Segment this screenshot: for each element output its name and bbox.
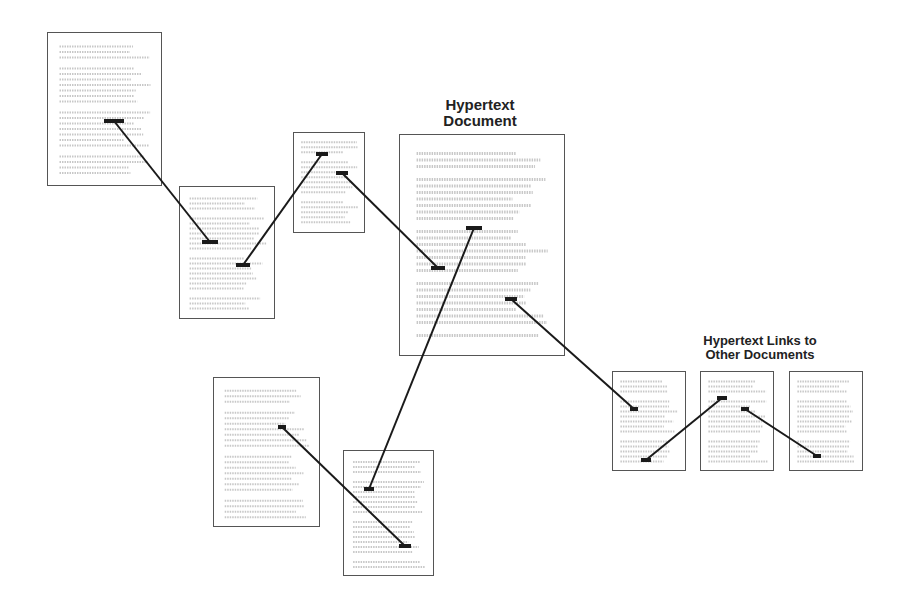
hyperlink-line bbox=[745, 409, 817, 456]
link-anchor bbox=[104, 119, 124, 123]
hyperlink-line bbox=[114, 121, 210, 242]
link-anchor bbox=[505, 297, 517, 301]
link-anchor bbox=[431, 266, 445, 270]
link-anchor bbox=[717, 396, 727, 400]
hyperlink-line bbox=[342, 173, 438, 268]
link-anchor bbox=[336, 171, 348, 175]
link-anchor bbox=[316, 152, 328, 156]
link-anchor bbox=[202, 240, 218, 244]
link-anchor bbox=[641, 458, 651, 462]
link-anchor bbox=[399, 544, 411, 548]
link-anchor bbox=[278, 425, 286, 429]
link-anchor bbox=[364, 487, 374, 491]
hyperlink-line bbox=[369, 228, 474, 489]
hyperlinks-layer bbox=[0, 0, 902, 608]
hyperlink-line bbox=[511, 299, 634, 409]
link-anchor bbox=[813, 454, 821, 458]
link-anchor bbox=[630, 407, 638, 411]
hyperlink-line bbox=[646, 398, 722, 460]
link-anchor bbox=[466, 226, 482, 230]
link-anchor bbox=[741, 407, 749, 411]
hyperlink-line bbox=[243, 154, 322, 265]
link-anchor bbox=[236, 263, 250, 267]
